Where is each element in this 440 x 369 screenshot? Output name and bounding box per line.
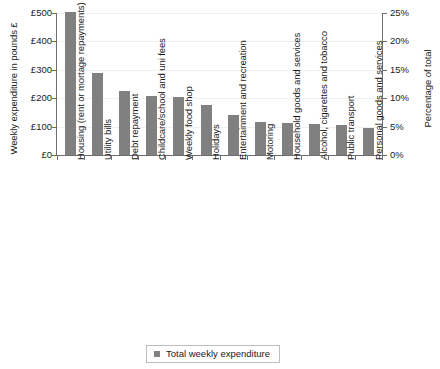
x-axis-category-labels: Housing (rent or mortage repayments)Util… [0, 0, 440, 369]
y-tick-mark-right [382, 70, 387, 71]
x-axis-label: Housing (rent or mortage repayments) [75, 3, 86, 160]
x-tick-mark [301, 155, 302, 160]
y-tick-mark-left [52, 127, 57, 128]
x-axis-label: Alcohol, cigarettes and tobacco [318, 31, 329, 160]
x-tick-mark [382, 155, 383, 160]
x-axis-label: Weekly food shop [183, 86, 194, 160]
x-tick-mark [165, 155, 166, 160]
x-axis-label: Personal goods and services [373, 41, 384, 160]
bar-chart: Weekly expenditure in pounds £ Percentag… [0, 0, 440, 369]
x-tick-mark [274, 155, 275, 160]
y-tick-mark-right [382, 127, 387, 128]
y-tick-mark-left [52, 13, 57, 14]
x-tick-mark [138, 155, 139, 160]
x-tick-mark [57, 155, 58, 160]
legend-label: Total weekly expenditure [166, 348, 270, 359]
y-tick-mark-left [52, 98, 57, 99]
y-tick-mark-right [382, 13, 387, 14]
y-tick-mark-left [52, 70, 57, 71]
chart-legend: Total weekly expenditure [146, 345, 280, 363]
square-marker-icon [154, 351, 160, 357]
x-tick-mark [220, 155, 221, 160]
x-axis-label: Entertainment and recreation [237, 40, 248, 160]
x-tick-mark [111, 155, 112, 160]
y-tick-mark-left [52, 41, 57, 42]
x-tick-mark [328, 155, 329, 160]
y-tick-mark-right [382, 41, 387, 42]
x-axis-label: Utility bills [102, 119, 113, 160]
x-tick-mark [192, 155, 193, 160]
x-tick-mark [84, 155, 85, 160]
x-tick-mark [355, 155, 356, 160]
x-axis-label: Public transport [345, 96, 356, 160]
x-tick-mark [247, 155, 248, 160]
x-axis-label: Household goods and services [291, 33, 302, 160]
x-axis-label: Childcare/school and uni fees [156, 38, 167, 160]
x-axis-label: Debt repayment [129, 94, 140, 160]
y-tick-mark-right [382, 98, 387, 99]
